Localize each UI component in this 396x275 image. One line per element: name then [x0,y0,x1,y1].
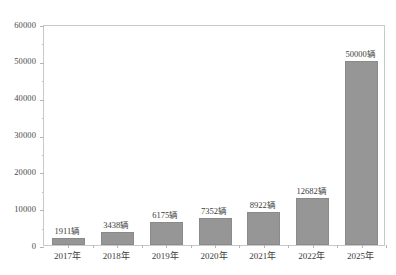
x-tick-mark [264,245,265,248]
x-tick-mark [313,245,314,248]
y-tick-mark [40,247,44,248]
y-tick-mark [40,100,44,101]
y-tick-mark [40,63,44,64]
y-tick-mark [40,210,44,211]
x-tick-mark [362,245,363,248]
x-category-label: 2025年 [321,252,396,261]
bar-value-label: 8922辆 [223,201,303,210]
x-tick-mark [215,245,216,248]
x-tick-mark [191,245,192,248]
bar-chart: 0100002000030000400005000060000 2017年201… [0,0,396,275]
bar [52,238,85,245]
y-minor-tick-mark [42,155,44,156]
y-tick-mark [40,26,44,27]
y-tick-label: 20000 [0,168,36,177]
x-tick-mark [239,245,240,248]
bar-value-label: 12682辆 [272,187,352,196]
bar [247,212,280,245]
y-tick-label: 0 [0,242,36,251]
y-tick-label: 40000 [0,94,36,103]
y-tick-label: 30000 [0,131,36,140]
x-tick-mark [166,245,167,248]
x-tick-mark [337,245,338,248]
y-minor-tick-mark [42,118,44,119]
bar [345,61,378,245]
y-minor-tick-mark [42,44,44,45]
y-tick-label: 60000 [0,21,36,30]
y-tick-mark [40,173,44,174]
x-tick-mark [93,245,94,248]
x-tick-mark [68,245,69,248]
y-minor-tick-mark [42,81,44,82]
bar [199,218,232,245]
bar-value-label: 3438辆 [76,221,156,230]
y-tick-label: 10000 [0,205,36,214]
bar-value-label: 50000辆 [321,50,396,59]
x-tick-mark [386,245,387,248]
y-minor-tick-mark [42,192,44,193]
y-tick-mark [40,137,44,138]
x-tick-mark [288,245,289,248]
y-tick-label: 50000 [0,57,36,66]
x-tick-mark [142,245,143,248]
x-tick-mark [117,245,118,248]
